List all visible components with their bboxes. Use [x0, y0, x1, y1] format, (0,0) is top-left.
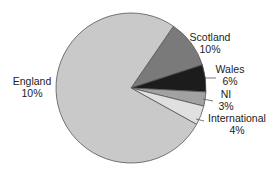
label-international: International4% — [208, 112, 266, 136]
pie-slices — [56, 13, 206, 163]
label-name: England — [13, 75, 52, 87]
label-name: Scotland — [190, 31, 231, 43]
label-ni: NI3% — [218, 88, 233, 112]
label-name: Wales — [216, 63, 245, 75]
pie-chart: Scotland10%Wales6%NI3%International4%Eng… — [0, 0, 278, 172]
label-england: England10% — [13, 75, 52, 99]
label-percent: 6% — [222, 75, 237, 87]
label-name: International — [208, 112, 266, 124]
label-percent: 10% — [21, 87, 42, 99]
label-percent: 10% — [199, 43, 220, 55]
label-name: NI — [221, 88, 232, 100]
label-wales: Wales6% — [216, 63, 245, 87]
label-percent: 3% — [218, 100, 233, 112]
label-percent: 4% — [229, 124, 244, 136]
